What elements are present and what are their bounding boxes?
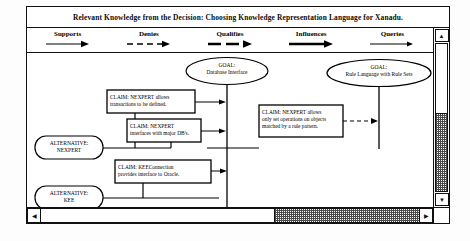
window-title-bar: Relevant Knowledge from the Decision: Ch…: [27, 7, 449, 28]
horizontal-scroll-trough[interactable]: [275, 209, 419, 222]
chevron-right-icon: ▶: [424, 213, 429, 219]
claim2-line2: interfaces with major DB's.: [130, 130, 202, 137]
scroll-down-button[interactable]: ▼: [435, 193, 449, 206]
goal-rule-language-shape[interactable]: [327, 60, 431, 87]
vertical-scroll-track[interactable]: [435, 43, 448, 192]
vertical-scrollbar[interactable]: ▲ ▼: [433, 28, 449, 207]
claim3-line3: matched by a rule pattern.: [262, 123, 344, 130]
horizontal-scroll-thumb[interactable]: [41, 209, 275, 222]
claim4-line2: provides interface to Oracle.: [118, 171, 212, 178]
claim4-line1: CLAIM: KEEConnection: [118, 164, 212, 171]
alternative-nexpert-shape[interactable]: [35, 136, 103, 159]
legend-bar: Supports Denies: [27, 28, 449, 53]
claim2-line1: CLAIM: NEXPERT: [130, 123, 202, 130]
arrow-right-dashed-icon: [126, 39, 172, 48]
claim3-line1: CLAIM: NEXPERT allows: [262, 109, 344, 116]
horizontal-scrollbar[interactable]: ◀ ▶: [27, 207, 433, 223]
alternative-kee-shape[interactable]: [35, 186, 103, 207]
vertical-scroll-thumb[interactable]: [436, 44, 447, 114]
claim1-line2: transactions to be defined.: [110, 101, 194, 108]
edge-claim3-arrowhead: [371, 118, 378, 124]
legend-item-influences[interactable]: Influences: [271, 28, 352, 48]
legend-label-denies: Denies: [139, 30, 159, 39]
scroll-up-button[interactable]: ▲: [435, 29, 449, 42]
arrow-right-small-icon: [369, 39, 415, 48]
screenshot-root: Relevant Knowledge from the Decision: Ch…: [0, 0, 470, 241]
vertical-scroll-trough[interactable]: [436, 114, 447, 191]
legend-label-supports: Supports: [54, 30, 81, 39]
page-title: Relevant Knowledge from the Decision: Ch…: [73, 13, 403, 22]
chevron-left-icon: ◀: [32, 213, 37, 219]
claim-nexpert-transactions-label: CLAIM: NEXPERT allows transactions to be…: [110, 94, 194, 108]
claim1-line1: CLAIM: NEXPERT allows: [110, 94, 194, 101]
chevron-up-icon: ▲: [439, 33, 445, 39]
legend-item-supports[interactable]: Supports: [27, 28, 108, 48]
claim-nexpert-interfaces-label: CLAIM: NEXPERT interfaces with major DB'…: [130, 123, 202, 137]
legend-item-qualifies[interactable]: Qualifies: [189, 28, 270, 48]
horizontal-scroll-track[interactable]: [41, 208, 419, 223]
legend-label-queries: Queries: [381, 30, 404, 39]
diagram-canvas[interactable]: GOAL: Database Interface GOAL: Rule Lang…: [27, 53, 433, 207]
edge-claim2-arrowhead: [219, 128, 226, 133]
legend-label-influences: Influences: [296, 30, 327, 39]
legend-item-denies[interactable]: Denies: [108, 28, 189, 48]
claim-keeconnection-oracle-label: CLAIM: KEEConnection provides interface …: [118, 164, 212, 178]
diagram-window: Relevant Knowledge from the Decision: Ch…: [26, 6, 450, 224]
legend-label-qualifies: Qualifies: [217, 30, 244, 39]
scrollbar-corner: [433, 207, 449, 223]
edge-claim4-arrowhead: [220, 168, 227, 173]
claim3-line2: only set operations on objects: [262, 116, 344, 123]
arrow-right-thick-icon: [288, 39, 334, 48]
legend-item-queries[interactable]: Queries: [352, 28, 433, 48]
scroll-right-button[interactable]: ▶: [419, 208, 433, 223]
arrow-right-icon: [45, 39, 91, 48]
chevron-down-icon: ▼: [439, 197, 445, 203]
scroll-left-button[interactable]: ◀: [27, 208, 41, 223]
edge-claim1-arrowhead: [219, 99, 226, 104]
arrow-right-thick-dashed-icon: [207, 39, 253, 48]
claim-nexpert-set-operations-label: CLAIM: NEXPERT allows only set operation…: [262, 109, 344, 131]
goal-database-interface-shape[interactable]: [186, 58, 268, 85]
diagram-graphics: [27, 53, 433, 207]
